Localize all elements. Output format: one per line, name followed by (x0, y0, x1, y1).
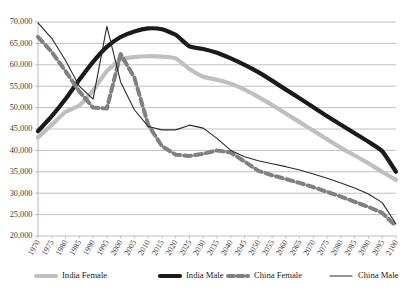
y-tick-label: 35,000 (10, 167, 33, 176)
x-tick-label: 2050 (246, 239, 262, 258)
x-tick-label: 1995 (95, 239, 111, 258)
x-tick-label: 2060 (274, 239, 290, 258)
legend-label-india-female[interactable]: India Female (62, 270, 107, 280)
y-tick-label: 55,000 (10, 82, 33, 91)
x-tick-label: 1975 (40, 239, 56, 258)
x-tick-label: 2055 (260, 239, 276, 258)
x-tick-label: 2010 (136, 239, 152, 258)
x-tick-label: 2090 (357, 239, 373, 258)
y-tick-label: 20,000 (10, 231, 33, 240)
x-tick-label: 2100 (384, 239, 400, 258)
series-line-india-female (38, 56, 396, 180)
y-tick-label: 70,000 (10, 17, 33, 26)
y-axis-tick-labels: 70,00065,00060,00055,00050,00045,00040,0… (10, 17, 33, 240)
x-tick-label: 2030 (191, 239, 207, 258)
x-tick-label: 2080 (329, 239, 345, 258)
x-tick-label: 2015 (150, 239, 166, 258)
x-tick-label: 2095 (370, 239, 386, 258)
x-tick-label: 2020 (164, 239, 180, 258)
y-tick-label: 60,000 (10, 60, 33, 69)
x-tick-label: 2025 (178, 239, 194, 258)
y-tick-label: 50,000 (10, 103, 33, 112)
x-tick-label: 1980 (54, 239, 70, 258)
line-chart: 70,00065,00060,00055,00050,00045,00040,0… (0, 0, 411, 294)
x-tick-label: 1990 (81, 239, 97, 258)
y-tick-label: 65,000 (10, 39, 33, 48)
chart-legend: India FemaleIndia MaleChina FemaleChina … (36, 270, 399, 280)
y-tick-label: 45,000 (10, 124, 33, 133)
legend-label-india-male[interactable]: India Male (186, 270, 224, 280)
y-tick-label: 40,000 (10, 146, 33, 155)
x-tick-label: 2005 (122, 239, 138, 258)
x-tick-label: 2040 (219, 239, 235, 258)
chart-container: 70,00065,00060,00055,00050,00045,00040,0… (0, 0, 411, 294)
x-tick-label: 2035 (205, 239, 221, 258)
x-axis-tick-marks (38, 236, 396, 239)
x-tick-label: 2070 (301, 239, 317, 258)
data-series-group (38, 23, 396, 226)
x-tick-label: 2000 (109, 239, 125, 258)
x-tick-label: 1970 (26, 239, 42, 258)
y-tick-label: 30,000 (10, 189, 33, 198)
x-tick-label: 2075 (315, 239, 331, 258)
x-axis-tick-labels: 1970197519801985199019952000200520102015… (26, 239, 400, 258)
x-tick-label: 2045 (233, 239, 249, 258)
legend-label-china-male[interactable]: China Male (358, 270, 399, 280)
x-tick-label: 1985 (67, 239, 83, 258)
y-tick-label: 25,000 (10, 210, 33, 219)
x-tick-label: 2085 (343, 239, 359, 258)
x-tick-label: 2065 (288, 239, 304, 258)
legend-label-china-female[interactable]: China Female (254, 270, 302, 280)
